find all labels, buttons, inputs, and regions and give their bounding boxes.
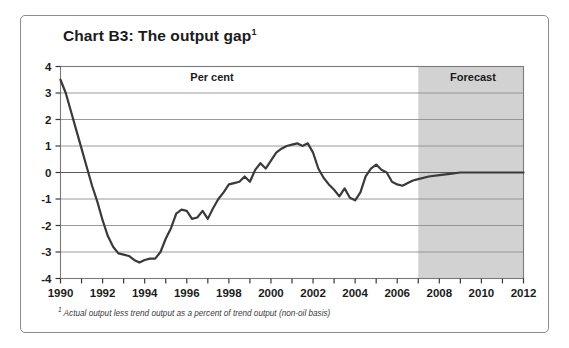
footnote: 1 Actual output less trend output as a p… [58,306,330,318]
y-axis-tick-label: -4 [41,273,52,285]
x-axis-tick-label: 1992 [90,287,116,299]
y-axis-tick-label: 1 [45,140,52,152]
footnote-text: Actual output less trend output as a per… [64,309,331,318]
x-axis-tick-label: 2004 [342,287,368,299]
y-axis-tick-label: -2 [41,220,51,232]
x-axis-tick-label: 2006 [384,287,410,299]
x-axis-tick-label: 1996 [174,287,200,299]
chart-figure: Chart B3: The output gap1 -4-3-2-1012341… [0,0,569,348]
x-axis-tick-label: 2000 [258,287,284,299]
x-axis-tick-label: 2008 [427,287,453,299]
plot-annotation-per-cent: Per cent [190,71,234,83]
x-axis-tick-label: 1994 [132,287,158,299]
output-gap-line-chart: -4-3-2-101234199019921994199619982000200… [0,0,569,348]
y-axis-tick-label: -3 [41,246,51,258]
x-axis-tick-label: 1998 [216,287,242,299]
x-axis-tick-label: 2010 [469,287,495,299]
plot-annotation-forecast: Forecast [450,71,496,83]
y-axis-tick-label: 3 [45,87,51,99]
x-axis-tick-label: 2002 [300,287,326,299]
x-axis-tick-label: 1990 [48,287,74,299]
y-axis-tick-label: 4 [45,61,52,73]
footnote-marker: 1 [58,306,62,313]
x-axis-tick-label: 2012 [511,287,537,299]
y-axis-tick-label: 2 [45,114,51,126]
y-axis-tick-label: -1 [41,193,52,205]
y-axis-tick-label: 0 [45,167,51,179]
